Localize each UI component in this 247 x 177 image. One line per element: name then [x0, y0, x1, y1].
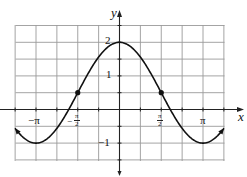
tick-label-y-neg-1: −1 — [98, 137, 110, 148]
y-axis-arrow-down-icon — [118, 171, 122, 176]
graph-canvas — [0, 0, 247, 177]
tick-label-neg-half-pi-sign: − — [67, 117, 72, 126]
tick-label-half-pi: π 2 — [157, 113, 163, 128]
tick-label-y-1: 1 — [106, 69, 112, 80]
highlighted-point — [159, 90, 164, 95]
tick-label-neg-half-pi: π 2 — [74, 113, 80, 128]
tick-label-y-2: 2 — [105, 35, 111, 46]
y-axis-label: y — [111, 6, 117, 19]
tick-label-pi: π — [200, 115, 206, 126]
highlighted-point — [75, 90, 80, 95]
y-axis-arrow-icon — [117, 10, 122, 17]
tick-label-neg-pi: −π — [28, 115, 40, 126]
x-axis-label: x — [238, 110, 244, 123]
